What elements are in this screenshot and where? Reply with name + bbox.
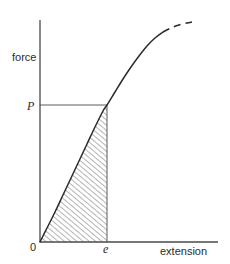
extension-value-label-e: e: [103, 242, 109, 256]
force-value-label-p: P: [26, 99, 35, 113]
y-axis-label: force: [12, 51, 36, 63]
origin-label: 0: [30, 241, 36, 253]
graph-canvas: force extension 0 P e: [0, 0, 230, 264]
x-axis-label: extension: [160, 245, 207, 257]
force-extension-figure: force extension 0 P e: [0, 0, 230, 264]
force-extension-curve-dashed: [163, 22, 192, 32]
